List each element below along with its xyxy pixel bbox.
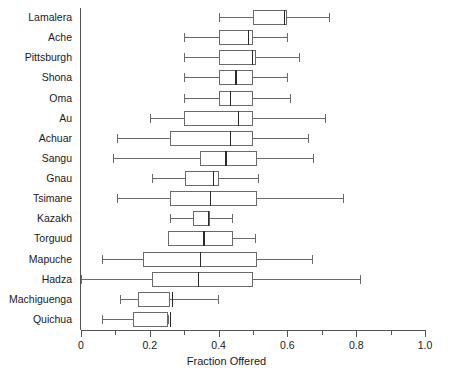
- x-tick-major: [425, 331, 426, 337]
- median-line: [225, 151, 226, 166]
- whisker-low-line: [150, 118, 184, 119]
- x-axis-title: Fraction Offered: [0, 355, 453, 367]
- whisker-low-cap: [150, 114, 151, 123]
- whisker-low-cap: [219, 13, 220, 22]
- box-iqr: [200, 151, 257, 166]
- boxplot-row: [81, 209, 425, 229]
- whisker-high-cap: [255, 234, 256, 243]
- box-iqr: [184, 111, 253, 126]
- x-tick-major: [219, 331, 220, 337]
- whisker-low-line: [184, 98, 218, 99]
- category-label: Pittsburgh: [25, 52, 72, 63]
- whisker-low-cap: [184, 73, 185, 82]
- whisker-low-line: [170, 218, 193, 219]
- median-line: [203, 231, 204, 246]
- whisker-low-cap: [184, 53, 185, 62]
- x-tick-minor: [115, 331, 116, 335]
- whisker-low-line: [184, 37, 218, 38]
- category-axis-labels: LamaleraAchePittsburghShonaOmaAuAchuarSa…: [0, 0, 76, 330]
- whisker-high-line: [253, 118, 325, 119]
- whisker-high-cap: [329, 13, 330, 22]
- box-iqr: [152, 272, 253, 287]
- category-label: Shona: [42, 72, 72, 83]
- whisker-low-line: [184, 57, 218, 58]
- whisker-high-line: [170, 299, 218, 300]
- whisker-high-cap: [218, 295, 219, 304]
- x-tick-major: [356, 331, 357, 337]
- boxplot-row: [81, 229, 425, 249]
- whisker-high-line: [256, 57, 298, 58]
- x-tick-minor: [322, 331, 323, 335]
- whisker-high-cap: [308, 134, 309, 143]
- whisker-high-line: [233, 238, 255, 239]
- category-label: Gnau: [46, 173, 72, 184]
- median-line: [238, 111, 239, 126]
- x-tick-minor: [391, 331, 392, 335]
- category-label: Quichua: [33, 314, 72, 325]
- x-tick-minor: [253, 331, 254, 335]
- x-tick-major: [287, 331, 288, 337]
- boxplot-row: [81, 129, 425, 149]
- whisker-high-cap: [343, 194, 344, 203]
- whisker-high-line: [219, 178, 259, 179]
- whisker-low-cap: [117, 134, 118, 143]
- median-line: [230, 91, 231, 106]
- boxplot-row: [81, 89, 425, 109]
- whisker-high-line: [210, 218, 232, 219]
- whisker-high-line: [253, 77, 287, 78]
- median-line: [284, 10, 285, 25]
- box-iqr: [253, 10, 287, 25]
- median-line: [198, 272, 199, 287]
- box-iqr: [170, 191, 257, 206]
- median-line: [200, 252, 201, 267]
- whisker-high-line: [257, 259, 312, 260]
- median-line: [208, 211, 209, 226]
- boxplot-row: [81, 68, 425, 88]
- whisker-low-line: [120, 299, 138, 300]
- category-label: Hadza: [42, 274, 72, 285]
- whisker-high-cap: [299, 53, 300, 62]
- median-line: [252, 50, 253, 65]
- category-label: Achuar: [39, 133, 72, 144]
- whisker-high-line: [253, 279, 360, 280]
- category-label: Machiguenga: [9, 294, 72, 305]
- whisker-low-cap: [152, 174, 153, 183]
- median-line: [230, 131, 231, 146]
- boxplot-row: [81, 28, 425, 48]
- boxplot-row: [81, 290, 425, 310]
- whisker-low-cap: [184, 33, 185, 42]
- whisker-high-cap: [287, 73, 288, 82]
- box-iqr: [133, 312, 168, 327]
- category-label: Kazakh: [37, 213, 72, 224]
- whisker-low-cap: [102, 315, 103, 324]
- whisker-low-line: [81, 279, 152, 280]
- whisker-high-line: [253, 37, 287, 38]
- x-tick-major: [150, 331, 151, 337]
- whisker-low-line: [113, 158, 200, 159]
- x-tick-major: [81, 331, 82, 337]
- whisker-high-cap: [313, 154, 314, 163]
- whisker-low-line: [152, 178, 185, 179]
- whisker-high-line: [253, 98, 290, 99]
- x-tick-label: 0.6: [280, 339, 295, 351]
- boxplot-chart: LamaleraAchePittsburghShonaOmaAuAchuarSa…: [0, 0, 453, 378]
- box-iqr: [219, 91, 253, 106]
- whisker-high-cap: [287, 33, 288, 42]
- boxplot-row: [81, 48, 425, 68]
- box-iqr: [219, 50, 257, 65]
- x-tick-minor: [184, 331, 185, 335]
- category-label: Ache: [48, 32, 72, 43]
- median-line: [213, 171, 214, 186]
- whisker-high-cap: [325, 114, 326, 123]
- boxplot-row: [81, 109, 425, 129]
- median-line: [172, 292, 173, 307]
- category-label: Oma: [49, 93, 72, 104]
- category-label: Sangu: [42, 153, 72, 164]
- category-label: Torguud: [34, 233, 72, 244]
- boxplot-row: [81, 250, 425, 270]
- whisker-low-cap: [120, 295, 121, 304]
- category-label: Mapuche: [29, 254, 72, 265]
- category-label: Tsimane: [33, 193, 72, 204]
- x-tick-label: 0.4: [211, 339, 226, 351]
- boxplot-row: [81, 310, 425, 330]
